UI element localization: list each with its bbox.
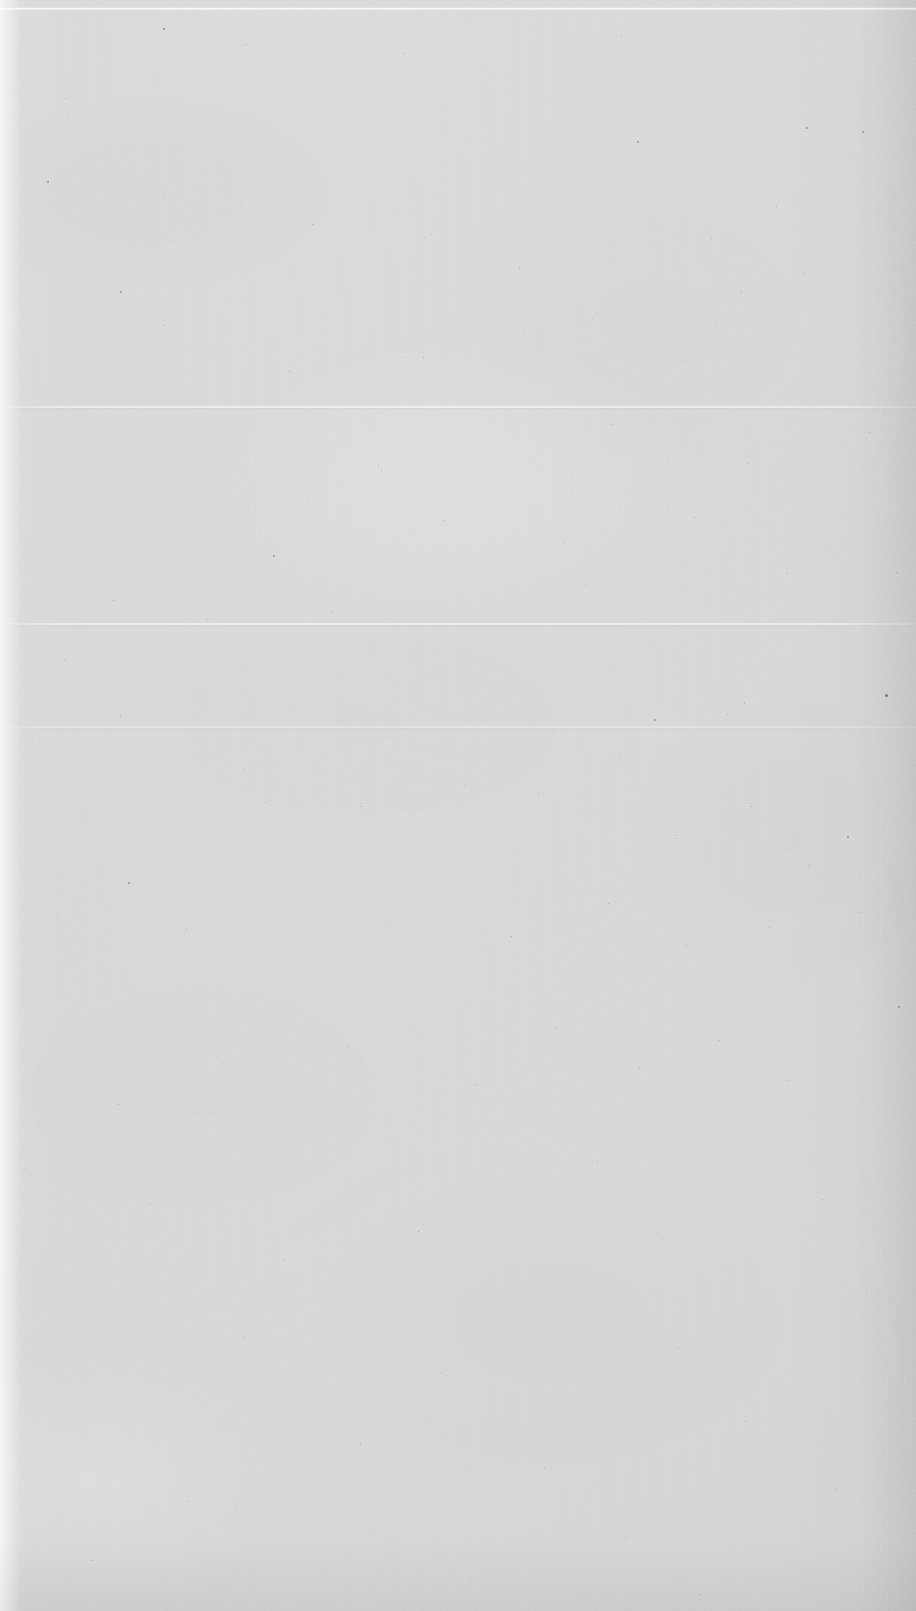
page-left-edge-highlight [0, 0, 22, 1611]
dust-speck [47, 181, 49, 183]
dust-speck [64, 659, 65, 660]
dust-speck [896, 572, 897, 573]
dust-speck [862, 131, 864, 133]
scanned-page [0, 0, 916, 1611]
dust-speck [621, 35, 622, 36]
dust-speck [898, 1006, 900, 1008]
dust-speck [847, 836, 849, 838]
dust-speck [92, 1560, 93, 1561]
dust-speck [163, 28, 165, 30]
dust-speck [869, 432, 870, 433]
dust-speck [246, 44, 247, 45]
dust-speck [57, 918, 58, 919]
dust-speck [858, 912, 859, 913]
dust-speck [885, 694, 888, 697]
dust-speck [470, 1578, 471, 1579]
page-bottom-edge-shadow [0, 1541, 916, 1611]
dust-speck [38, 742, 39, 743]
dust-speck [866, 1290, 867, 1291]
dust-speck [65, 98, 66, 99]
page-right-edge-shadow [856, 0, 916, 1611]
dust-speck [626, 1537, 627, 1538]
page-content-area [70, 90, 846, 1521]
dust-speck [404, 53, 405, 54]
dust-speck [30, 1174, 31, 1175]
dust-speck [700, 1594, 701, 1595]
scanner-top-edge-line [0, 7, 916, 10]
